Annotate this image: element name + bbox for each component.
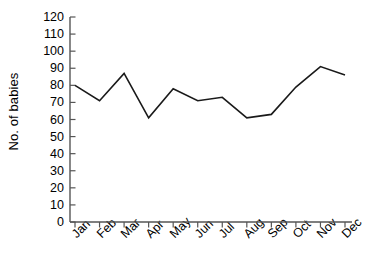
y-axis-tick-marks [70,17,76,222]
chart-plot-area [0,0,365,269]
chart-figure: No. of babies 01020304050607080901001101… [0,0,365,269]
x-axis-tick-marks [75,222,345,228]
data-series-line [75,67,345,118]
chart-axes [70,17,352,222]
